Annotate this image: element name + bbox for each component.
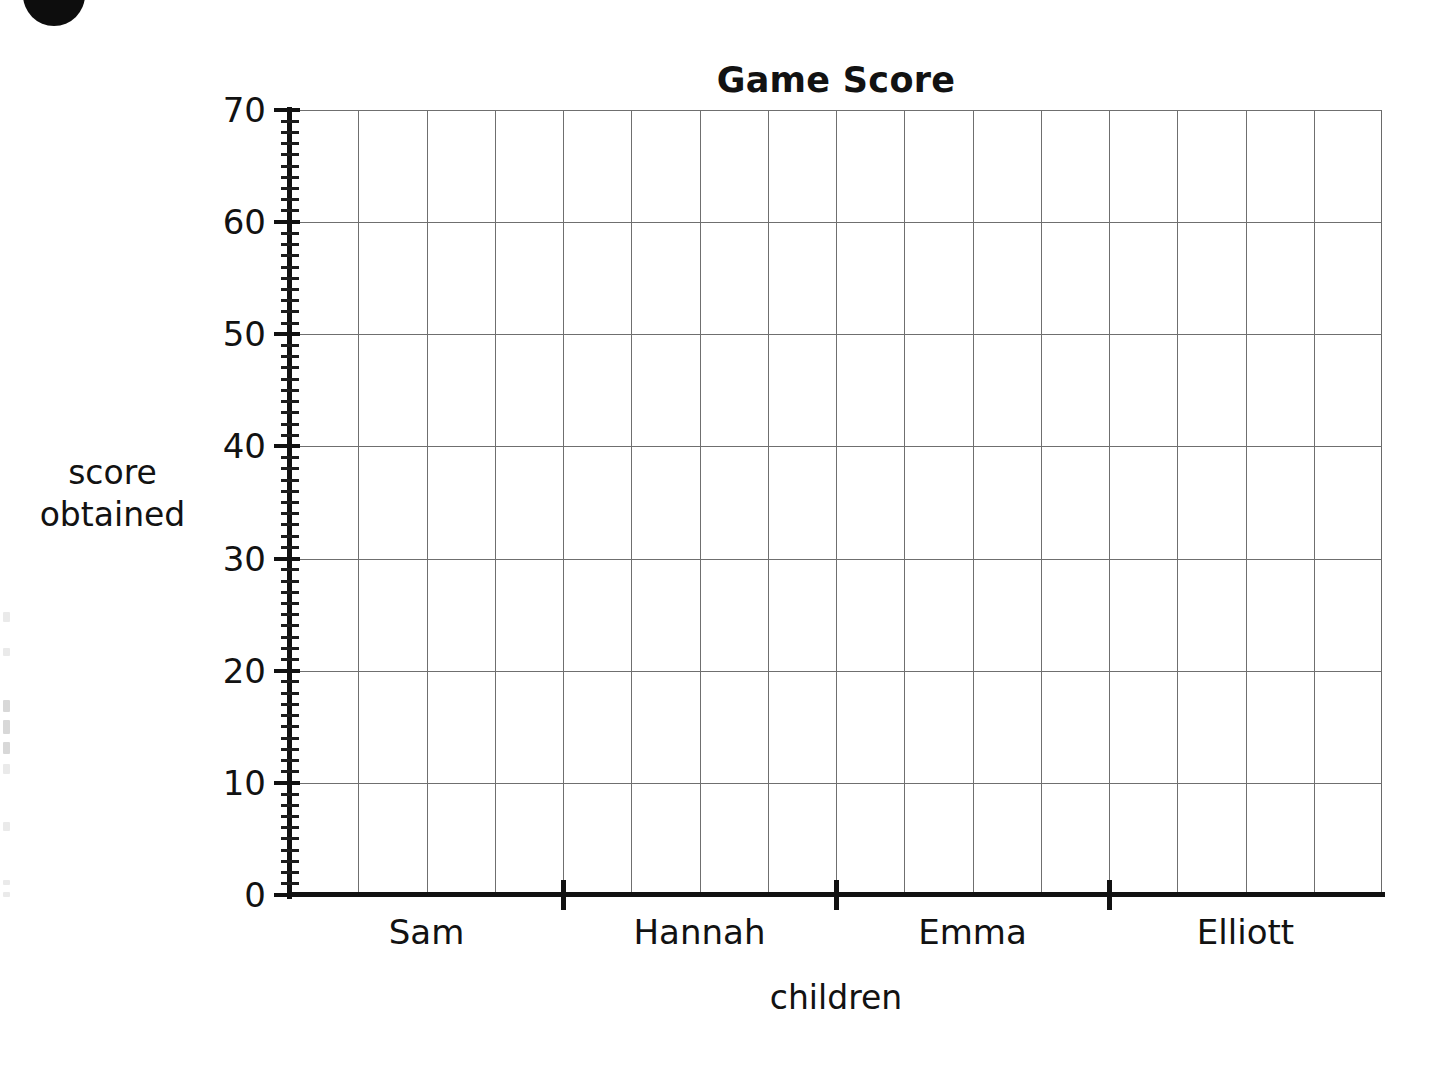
x-axis-title: children	[290, 978, 1382, 1017]
gridline-vertical	[836, 110, 837, 895]
y-tick-minor	[281, 434, 299, 437]
y-tick-minor	[281, 411, 299, 414]
y-tick-minor	[281, 344, 299, 347]
y-axis-title-line-1: score	[10, 452, 215, 494]
scan-artifact	[3, 612, 10, 622]
y-tick-minor	[281, 456, 299, 459]
y-tick-minor	[281, 366, 299, 369]
gridline-vertical	[973, 110, 974, 895]
y-tick-minor	[281, 714, 299, 717]
scan-artifact	[3, 648, 10, 656]
y-tick-minor	[281, 176, 299, 179]
y-tick-minor	[281, 546, 299, 549]
y-tick-minor	[281, 647, 299, 650]
y-tick-minor	[281, 187, 299, 190]
y-axis-tick-labels: 010203040506070	[190, 110, 266, 895]
gridline-vertical	[700, 110, 701, 895]
y-tick-minor	[281, 770, 299, 773]
y-tick-minor	[281, 120, 299, 123]
y-tick-minor	[281, 467, 299, 470]
y-tick-minor	[281, 310, 299, 313]
y-tick-label: 70	[196, 93, 266, 127]
gridline-vertical	[1041, 110, 1042, 895]
y-tick-major	[274, 108, 300, 112]
y-tick-minor	[281, 680, 299, 683]
y-tick-minor	[281, 636, 299, 639]
x-category-label-hannah: Hannah	[634, 912, 766, 952]
gridline-vertical	[1177, 110, 1178, 895]
bullet-circle-icon	[23, 0, 85, 26]
y-tick-minor	[281, 512, 299, 515]
y-tick-minor	[281, 277, 299, 280]
y-tick-minor	[281, 591, 299, 594]
gridline-vertical	[1314, 110, 1315, 895]
y-tick-minor	[281, 153, 299, 156]
y-tick-minor	[281, 389, 299, 392]
y-tick-minor	[281, 568, 299, 571]
y-tick-minor	[281, 624, 299, 627]
scan-artifact	[3, 742, 10, 754]
gridline-vertical	[631, 110, 632, 895]
y-tick-minor	[281, 479, 299, 482]
y-tick-minor	[281, 658, 299, 661]
y-tick-minor	[281, 198, 299, 201]
y-tick-minor	[281, 692, 299, 695]
y-tick-minor	[281, 243, 299, 246]
y-tick-major	[274, 444, 300, 448]
scan-artifact	[3, 892, 10, 897]
gridline-vertical	[904, 110, 905, 895]
scan-artifact	[3, 720, 10, 734]
scan-artifact	[3, 700, 10, 712]
x-tick-major	[561, 880, 566, 910]
y-tick-label: 50	[196, 317, 266, 351]
y-axis-title-line-2: obtained	[10, 494, 215, 536]
y-tick-minor	[281, 400, 299, 403]
gridline-vertical	[768, 110, 769, 895]
y-tick-minor	[281, 849, 299, 852]
gridline-vertical	[495, 110, 496, 895]
y-tick-major	[274, 781, 300, 785]
y-tick-minor	[281, 602, 299, 605]
y-tick-minor	[281, 165, 299, 168]
y-tick-minor	[281, 232, 299, 235]
y-tick-major	[274, 332, 300, 336]
x-category-label-emma: Emma	[918, 912, 1027, 952]
x-tick-major	[1107, 880, 1112, 910]
y-tick-major	[274, 893, 300, 897]
chart-title: Game Score	[290, 60, 1382, 100]
y-tick-label: 20	[196, 654, 266, 688]
y-tick-minor	[281, 266, 299, 269]
x-category-label-sam: Sam	[389, 912, 465, 952]
y-tick-minor	[281, 501, 299, 504]
gridline-vertical	[1246, 110, 1247, 895]
y-tick-major	[274, 557, 300, 561]
y-tick-minor	[281, 725, 299, 728]
x-category-label-elliott: Elliott	[1197, 912, 1294, 952]
y-tick-minor	[281, 131, 299, 134]
y-tick-minor	[281, 254, 299, 257]
worksheet-page: Game Score score obtained 01020304050607…	[0, 0, 1443, 1070]
y-tick-label: 30	[196, 542, 266, 576]
y-tick-minor	[281, 826, 299, 829]
y-tick-minor	[281, 793, 299, 796]
y-tick-minor	[281, 523, 299, 526]
y-tick-minor	[281, 737, 299, 740]
y-tick-minor	[281, 759, 299, 762]
scan-artifact	[3, 880, 10, 885]
gridline-vertical	[563, 110, 564, 895]
y-tick-minor	[281, 423, 299, 426]
y-tick-minor	[281, 288, 299, 291]
y-tick-minor	[281, 804, 299, 807]
y-tick-minor	[281, 490, 299, 493]
y-tick-minor	[281, 580, 299, 583]
y-tick-minor	[281, 815, 299, 818]
gridline-vertical	[358, 110, 359, 895]
y-tick-minor	[281, 535, 299, 538]
y-tick-minor	[281, 299, 299, 302]
y-tick-label: 60	[196, 205, 266, 239]
y-axis-title: score obtained	[10, 452, 215, 536]
y-tick-label: 40	[196, 429, 266, 463]
y-tick-minor	[281, 209, 299, 212]
y-tick-minor	[281, 613, 299, 616]
y-tick-minor	[281, 142, 299, 145]
